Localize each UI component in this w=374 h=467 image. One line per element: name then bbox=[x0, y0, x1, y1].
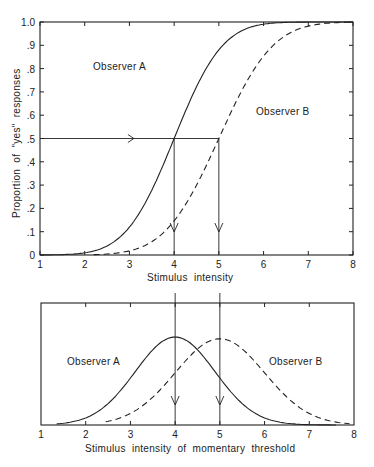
upper-chart: 123456780.1.2.3.4.5.6.7.8.91.0 Observer … bbox=[11, 17, 356, 283]
upper-y-tick-label: 0 bbox=[29, 250, 35, 261]
lower-curve-observer-a bbox=[57, 337, 336, 425]
lower-x-tick-label: 1 bbox=[38, 429, 44, 440]
upper-label-observer-b: Observer B bbox=[256, 106, 310, 117]
upper-y-tick-label: .8 bbox=[27, 64, 36, 75]
upper-x-tick-label: 7 bbox=[306, 259, 312, 270]
upper-x-tick-label: 3 bbox=[127, 259, 133, 270]
upper-y-tick-label: .7 bbox=[27, 87, 36, 98]
lower-x-tick-label: 5 bbox=[217, 429, 223, 440]
upper-x-tick-label: 8 bbox=[350, 259, 356, 270]
upper-guides bbox=[40, 135, 223, 256]
upper-x-tick-label: 5 bbox=[216, 259, 222, 270]
lower-ticks: 12345678 bbox=[38, 303, 357, 440]
lower-chart: 12345678 Observer A Observer B Stimulus … bbox=[38, 293, 357, 454]
upper-y-tick-label: .1 bbox=[27, 227, 36, 238]
lower-guides bbox=[171, 293, 224, 425]
upper-label-observer-a: Observer A bbox=[93, 61, 146, 72]
upper-ticks: 123456780.1.2.3.4.5.6.7.8.91.0 bbox=[21, 17, 356, 270]
lower-x-axis-label: Stimulus intensity of momentary threshol… bbox=[85, 443, 295, 454]
lower-label-observer-a: Observer A bbox=[67, 356, 120, 367]
upper-y-axis-label: Proportion of "yes" responses bbox=[11, 68, 22, 218]
upper-x-tick-label: 1 bbox=[37, 259, 43, 270]
lower-x-tick-label: 6 bbox=[262, 429, 268, 440]
upper-x-tick-label: 6 bbox=[261, 259, 267, 270]
upper-y-tick-label: .2 bbox=[27, 203, 36, 214]
lower-x-tick-label: 8 bbox=[351, 429, 357, 440]
psychometric-figure: 123456780.1.2.3.4.5.6.7.8.91.0 Observer … bbox=[0, 0, 374, 467]
upper-y-tick-label: .9 bbox=[27, 40, 36, 51]
upper-x-tick-label: 4 bbox=[171, 259, 177, 270]
upper-y-tick-label: .3 bbox=[27, 180, 36, 191]
upper-y-tick-label: .6 bbox=[27, 110, 36, 121]
upper-y-tick-label: 1.0 bbox=[21, 17, 35, 28]
lower-curve-observer-b bbox=[106, 339, 350, 424]
lower-x-tick-label: 3 bbox=[128, 429, 134, 440]
upper-y-tick-label: .4 bbox=[27, 157, 36, 168]
lower-label-observer-b: Observer B bbox=[269, 356, 323, 367]
upper-y-tick-label: .5 bbox=[27, 134, 36, 145]
lower-curves bbox=[57, 337, 350, 425]
lower-x-tick-label: 4 bbox=[172, 429, 178, 440]
upper-x-tick-label: 2 bbox=[82, 259, 88, 270]
upper-x-axis-label: Stimulus intensity bbox=[147, 272, 233, 283]
lower-x-tick-label: 7 bbox=[307, 429, 313, 440]
lower-x-tick-label: 2 bbox=[83, 429, 89, 440]
